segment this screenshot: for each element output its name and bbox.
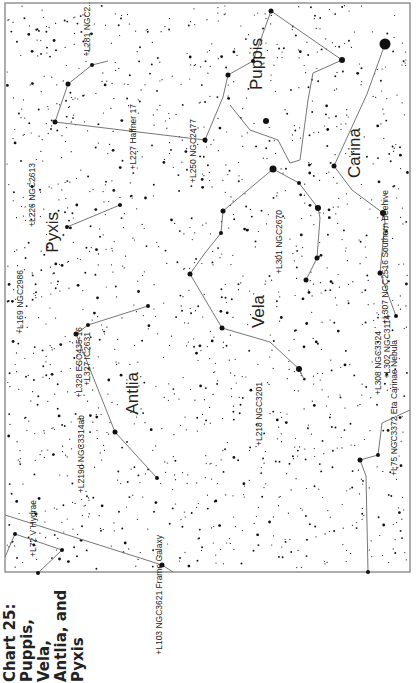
star [305,322,308,325]
star [43,209,44,210]
star [45,31,47,33]
star [104,333,105,334]
star [233,516,234,517]
star [190,21,191,22]
star [32,272,33,273]
star [351,47,352,48]
star [160,483,161,484]
star [310,215,311,216]
star [131,469,132,470]
star [369,549,370,550]
star [59,343,62,346]
star [253,123,254,124]
deep-sky-object-label: +L281 NGC2.. [82,2,92,57]
star [112,272,113,273]
star [320,282,321,283]
star [195,310,196,311]
star [172,388,174,390]
star [96,430,97,431]
star [41,450,42,451]
star [255,145,257,147]
star [33,353,34,354]
star [63,531,64,532]
star [382,555,383,556]
star [117,404,118,405]
star [169,142,170,143]
star [405,283,408,286]
star [100,528,101,529]
star [300,508,301,509]
star [362,508,363,509]
star [221,296,223,298]
star [22,562,23,563]
star [403,509,404,510]
star [407,275,408,276]
star [197,538,198,539]
star [245,376,246,377]
star [346,561,347,562]
star [271,74,272,75]
star [296,278,297,279]
star [296,246,297,247]
star [13,200,14,201]
star [369,430,370,431]
star [113,522,114,523]
star [289,369,290,370]
star [216,465,217,466]
star [111,264,112,265]
star [67,456,68,457]
star [342,239,343,240]
star [77,258,78,259]
star [329,531,330,532]
star [65,182,66,183]
star [37,404,39,406]
star [56,130,58,132]
star [313,404,316,407]
star [276,419,279,422]
star [69,227,72,230]
star [199,529,201,531]
star [272,411,274,413]
star [185,516,186,517]
star [103,191,104,192]
star [371,556,372,557]
deep-sky-object-label: +L103 NGC3621 Frame Galaxy [154,534,164,655]
star [357,405,358,406]
star [45,510,46,511]
star [213,139,214,140]
star [190,64,191,65]
star [187,53,188,54]
star [120,119,123,122]
star [265,18,266,19]
deep-sky-object-label: +L219d NGC3314ab [76,415,86,493]
star [40,269,42,271]
star [144,422,145,423]
star [69,182,70,183]
star [262,28,264,30]
star [195,64,196,65]
star [317,343,319,345]
star [225,13,226,14]
star [294,371,295,372]
star [207,508,209,510]
star [400,168,401,169]
star [235,359,236,360]
star [98,253,99,254]
star [65,100,67,102]
star [39,533,40,534]
star [63,80,64,81]
star [117,339,118,340]
star [320,380,321,381]
star [88,516,89,517]
star [242,376,243,377]
star [54,394,55,395]
star [24,134,25,135]
star [17,441,18,442]
star [24,358,25,359]
star [242,530,243,531]
star [204,399,205,400]
star [101,414,102,415]
star [73,242,74,243]
star [68,261,69,262]
star [151,63,153,65]
